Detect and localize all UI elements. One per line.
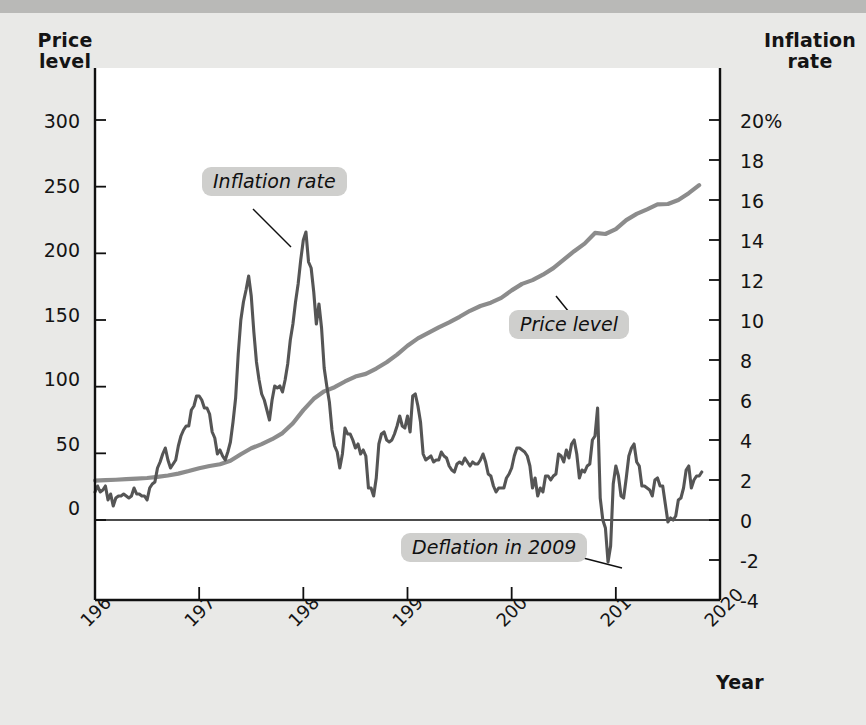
deflation-2009-label: Deflation in 2009 (401, 533, 587, 562)
chart-figure: Price level Inflation rate Year 300 250 … (0, 0, 866, 725)
plot-canvas (0, 0, 866, 725)
price-level-label: Price level (509, 310, 629, 339)
inflation-rate-label: Inflation rate (202, 167, 347, 196)
